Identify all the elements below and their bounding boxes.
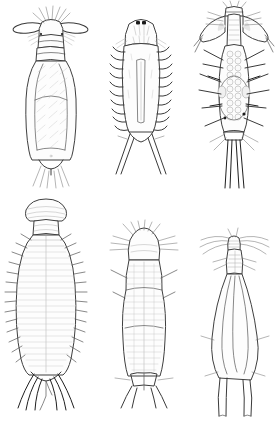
specimen-3-figure <box>194 2 274 190</box>
specimen-6-prongs <box>218 378 252 416</box>
specimen-6-drawing <box>199 228 273 418</box>
specimen-1-figure <box>8 6 94 188</box>
specimen-6-trunk <box>201 274 269 380</box>
specimen-3-drawing <box>194 2 274 190</box>
specimen-6-figure <box>199 228 273 418</box>
specimen-2-furca <box>116 132 166 174</box>
specimen-5-trunk <box>111 260 177 376</box>
specimen-3-caudal-rami <box>210 131 258 189</box>
specimen-4-furca <box>18 372 74 410</box>
illustration-plate <box>0 0 275 424</box>
specimen-5-head <box>110 220 178 260</box>
specimen-4-drawing <box>4 196 88 412</box>
specimen-4-head <box>26 199 67 221</box>
specimen-4-neck <box>33 220 59 236</box>
specimen-5-drawing <box>103 222 185 410</box>
specimen-6-rostrum <box>213 249 256 274</box>
specimen-2-figure <box>104 8 178 176</box>
specimen-5-furca <box>115 373 173 408</box>
specimen-5-figure <box>103 222 185 410</box>
specimen-2-trunk <box>110 44 172 133</box>
specimen-1-furca <box>33 160 69 188</box>
specimen-1-abdomen <box>26 61 76 160</box>
specimen-1-drawing <box>8 6 94 188</box>
specimen-2-drawing <box>104 8 178 176</box>
specimen-1-thorax <box>36 35 65 62</box>
specimen-4-trunk <box>5 234 87 375</box>
specimen-3-trunk <box>199 45 269 133</box>
specimen-4-figure <box>4 196 88 412</box>
